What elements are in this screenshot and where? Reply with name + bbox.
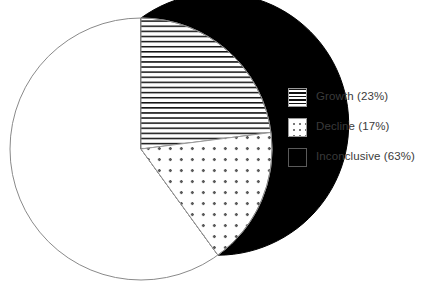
legend-item-inconclusive: Inconclusive (63%) [288, 142, 427, 172]
legend-label-decline: Decline (17%) [316, 121, 390, 133]
dots-swatch [288, 118, 307, 137]
horizontal-lines-swatch [288, 88, 307, 107]
solid-black-swatch [288, 148, 307, 167]
legend-item-decline: Decline (17%) [288, 112, 427, 142]
legend-label-growth: Growth (23%) [316, 91, 388, 103]
pie-chart-figure: Growth (23%) Decline (17%) Inconclusive … [0, 0, 427, 292]
legend-label-inconclusive: Inconclusive (63%) [316, 151, 415, 163]
legend-item-growth: Growth (23%) [288, 82, 427, 112]
chart-legend: Growth (23%) Decline (17%) Inconclusive … [288, 82, 427, 172]
